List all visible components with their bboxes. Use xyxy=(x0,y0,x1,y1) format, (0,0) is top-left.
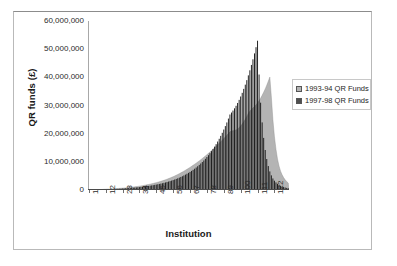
legend-label: 1993-94 QR Funds xyxy=(305,85,369,93)
y-tick-label: 20,000,000 xyxy=(14,130,84,138)
legend-label: 1997-98 QR Funds xyxy=(305,97,369,105)
x-tick-label: 34 xyxy=(142,185,150,194)
bar xyxy=(233,111,234,190)
series-bars-1997-98 xyxy=(88,41,288,190)
bar xyxy=(236,106,237,190)
x-tick-label: 111 xyxy=(261,182,269,194)
plot-area xyxy=(88,21,289,190)
x-tick-label: 45 xyxy=(159,185,167,194)
x-axis-title: Institution xyxy=(88,228,289,239)
legend-item: 1997-98 QR Funds xyxy=(296,95,368,106)
bar xyxy=(225,126,226,190)
legend-item: 1993-94 QR Funds xyxy=(296,83,368,94)
x-tick-label: 23 xyxy=(126,185,134,194)
chart-legend: 1993-94 QR Funds1997-98 QR Funds xyxy=(292,79,371,110)
bar xyxy=(254,53,255,190)
x-tick-mark xyxy=(89,190,90,193)
bar xyxy=(203,160,204,190)
x-tick-mark xyxy=(207,190,208,193)
x-tick-mark xyxy=(173,190,174,193)
bar xyxy=(246,80,247,190)
bar xyxy=(231,113,232,190)
y-tick-label: 0 xyxy=(14,186,84,194)
bar xyxy=(259,75,260,190)
bar xyxy=(243,89,244,190)
bar xyxy=(234,108,235,190)
bar xyxy=(222,133,223,190)
qr-funds-chart: QR funds (£) 60,000,00050,000,00040,000,… xyxy=(0,0,397,266)
bar xyxy=(262,122,263,190)
bar xyxy=(226,122,227,190)
y-tick-label: 10,000,000 xyxy=(14,158,84,166)
bar xyxy=(185,175,186,190)
bar xyxy=(220,136,221,190)
bar xyxy=(214,147,215,190)
x-tick-mark xyxy=(241,190,242,193)
bar xyxy=(229,115,230,191)
x-tick-label: 122 xyxy=(277,181,285,194)
x-tick-label: 56 xyxy=(176,185,184,194)
y-tick-label: 40,000,000 xyxy=(14,73,84,81)
bar xyxy=(228,119,229,190)
bar xyxy=(216,144,217,190)
x-tick-label: 89 xyxy=(227,185,235,194)
y-tick-label: 60,000,000 xyxy=(14,17,84,25)
bar xyxy=(188,173,189,190)
bar xyxy=(248,75,249,190)
x-tick-label: 78 xyxy=(210,185,218,194)
bar xyxy=(252,59,253,190)
x-tick-mark xyxy=(106,190,107,193)
bar xyxy=(260,103,261,190)
bar xyxy=(237,103,238,190)
bar xyxy=(205,159,206,190)
x-axis-line xyxy=(88,189,289,190)
bar xyxy=(239,100,240,190)
bar xyxy=(257,41,258,190)
bar xyxy=(219,139,220,190)
bar xyxy=(217,142,218,190)
x-tick-label: 12 xyxy=(109,185,117,194)
x-tick-label: 1 xyxy=(92,190,100,194)
bar xyxy=(242,93,243,190)
x-tick-mark xyxy=(190,190,191,193)
bar xyxy=(256,47,257,190)
x-tick-mark xyxy=(224,190,225,193)
y-tick-label: 30,000,000 xyxy=(14,102,84,110)
x-tick-mark xyxy=(123,190,124,193)
bar xyxy=(249,70,250,190)
bar xyxy=(202,162,203,190)
legend-swatch-icon xyxy=(296,86,302,92)
bar xyxy=(213,149,214,190)
bar xyxy=(190,172,191,190)
y-tick-label: 50,000,000 xyxy=(14,45,84,53)
bar xyxy=(269,171,270,190)
bar xyxy=(245,85,246,190)
bar xyxy=(240,96,241,190)
bar xyxy=(186,174,187,190)
plot-svg xyxy=(88,21,289,190)
bar xyxy=(251,65,252,190)
x-tick-mark xyxy=(258,190,259,193)
legend-swatch-icon xyxy=(296,98,302,104)
y-axis-tick-labels: 60,000,00050,000,00040,000,00030,000,000… xyxy=(14,0,84,266)
bar xyxy=(271,175,272,190)
x-tick-label: 67 xyxy=(193,185,201,194)
bar xyxy=(223,130,224,190)
x-tick-label: 100 xyxy=(244,181,252,194)
bar xyxy=(206,157,207,190)
